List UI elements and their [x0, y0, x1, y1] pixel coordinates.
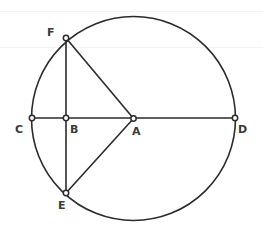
point-label-c: C: [15, 124, 23, 135]
point-label-e: E: [58, 200, 66, 211]
point-marker-f: [63, 35, 68, 40]
point-marker-b: [63, 115, 68, 120]
circle-diagram-canvas: [0, 0, 263, 233]
point-marker-d: [232, 115, 237, 120]
point-label-b: B: [70, 124, 78, 135]
point-marker-a: [131, 116, 136, 121]
point-markers-group: [29, 35, 237, 195]
point-label-a: A: [132, 126, 141, 137]
point-marker-c: [29, 115, 34, 120]
point-label-d: D: [238, 124, 247, 135]
geometry-figure: FCBADE: [0, 0, 263, 233]
segment-fa: [66, 38, 134, 119]
point-label-f: F: [47, 27, 55, 38]
point-marker-e: [63, 190, 68, 195]
